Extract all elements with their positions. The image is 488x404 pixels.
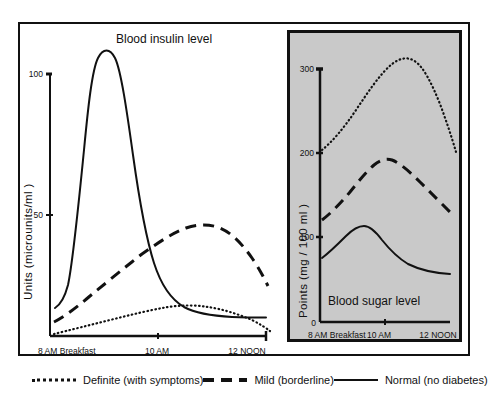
legend-item-mild: Mild (borderline) — [203, 374, 333, 386]
legend-label-definite: Definite (with symptoms) — [83, 374, 203, 386]
legend-label-normal: Normal (no diabetes) — [385, 374, 488, 386]
inset-chart-frame — [287, 30, 462, 342]
legend-label-mild: Mild (borderline) — [254, 374, 333, 386]
dotted-line-icon — [32, 375, 76, 385]
legend: Definite (with symptoms) Mild (borderlin… — [18, 368, 470, 392]
figure-container: 100 50 8 AM Breakfast 10 AM 12 NOON Unit… — [0, 0, 488, 404]
legend-item-normal: Normal (no diabetes) — [334, 374, 488, 386]
dashed-line-icon — [203, 375, 247, 385]
solid-line-icon — [334, 375, 378, 385]
legend-item-definite: Definite (with symptoms) — [32, 374, 203, 386]
